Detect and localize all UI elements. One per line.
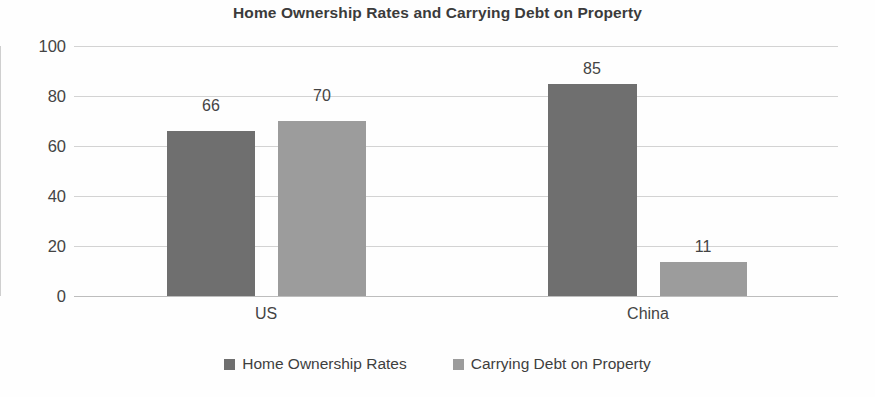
data-label-china-home-ownership-rates: 85: [583, 60, 601, 78]
gridline-0: [74, 296, 838, 297]
data-label-china-carrying-debt-on-property: 11: [695, 238, 712, 256]
y-tick-label-80: 80: [4, 87, 66, 106]
legend-swatch-icon-home-ownership-rates: [224, 359, 235, 370]
gridline-80: [74, 96, 838, 97]
y-tick-label-100: 100: [4, 37, 66, 56]
legend-item-home-ownership-rates[interactable]: Home Ownership Rates: [224, 355, 407, 373]
category-label-china: China: [627, 305, 669, 323]
y-axis-tick-labels: 100 80 60 40 20 0: [0, 46, 66, 296]
bar-china-home-ownership-rates[interactable]: [548, 84, 637, 296]
y-tick-label-20: 20: [4, 237, 66, 256]
bar-us-home-ownership-rates[interactable]: [167, 131, 255, 296]
category-label-us: US: [255, 305, 277, 323]
legend-item-carrying-debt-on-property[interactable]: Carrying Debt on Property: [453, 355, 651, 373]
gridline-100: [74, 46, 838, 47]
data-label-us-carrying-debt-on-property: 70: [313, 87, 331, 105]
chart-legend: Home Ownership Rates Carrying Debt on Pr…: [0, 355, 875, 373]
bar-us-carrying-debt-on-property[interactable]: [278, 121, 366, 296]
bar-chart: Home Ownership Rates and Carrying Debt o…: [0, 0, 875, 397]
legend-label-home-ownership-rates: Home Ownership Rates: [242, 355, 407, 373]
legend-swatch-icon-carrying-debt-on-property: [453, 359, 464, 370]
data-label-us-home-ownership-rates: 66: [202, 97, 220, 115]
bar-china-carrying-debt-on-property[interactable]: [660, 262, 747, 296]
plot-area: [74, 46, 838, 296]
y-tick-label-40: 40: [4, 187, 66, 206]
y-tick-label-60: 60: [4, 137, 66, 156]
legend-label-carrying-debt-on-property: Carrying Debt on Property: [471, 355, 651, 373]
chart-title: Home Ownership Rates and Carrying Debt o…: [0, 4, 875, 22]
y-tick-label-0: 0: [4, 287, 66, 306]
